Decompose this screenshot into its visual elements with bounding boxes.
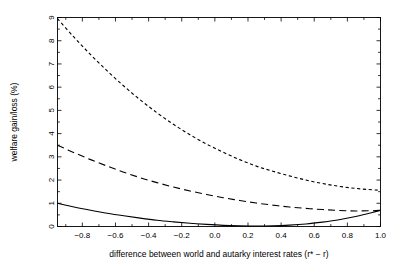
x-tick-label: 0.2 <box>242 231 254 240</box>
y-axis-label: welfare gain/loss (%) <box>9 82 19 162</box>
x-tick-label: 0.0 <box>209 231 221 240</box>
x-tick-label: 0.4 <box>276 231 288 240</box>
welfare-gain-loss-line-chart: −0.8−0.6−0.4−0.20.00.20.40.60.81.0 01234… <box>0 0 402 275</box>
x-tick-label: 0.8 <box>342 231 354 240</box>
chart-figure: −0.8−0.6−0.4−0.20.00.20.40.60.81.0 01234… <box>0 0 402 275</box>
y-tick-label: 1 <box>47 201 56 206</box>
x-tick-label: 0.6 <box>309 231 321 240</box>
y-tick-label: 9 <box>47 15 56 20</box>
x-axis-label: difference between world and autarky int… <box>109 249 328 259</box>
y-tick-label: 5 <box>47 108 56 113</box>
y-tick-label: 7 <box>47 61 56 66</box>
y-tick-label: 3 <box>47 154 56 159</box>
x-tick-label: 1.0 <box>375 231 387 240</box>
y-tick-label: 4 <box>47 131 56 136</box>
y-tick-label: 6 <box>47 84 56 89</box>
x-tick-label: −0.4 <box>141 231 157 240</box>
y-tick-label: 8 <box>47 38 56 43</box>
x-tick-label: −0.6 <box>108 231 124 240</box>
x-tick-label: −0.8 <box>74 231 90 240</box>
y-tick-label: 2 <box>47 177 56 182</box>
x-tick-label: −0.2 <box>174 231 190 240</box>
y-tick-label: 0 <box>47 224 56 229</box>
